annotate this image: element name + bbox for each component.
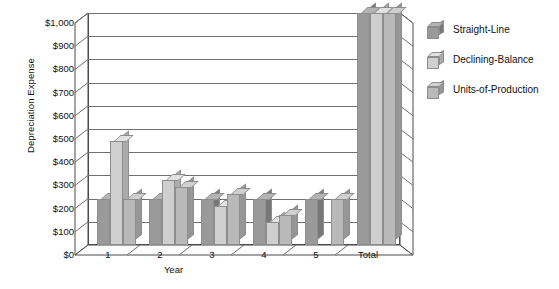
y-axis-tick-label: $1,000: [45, 18, 74, 28]
bar-face: [227, 194, 240, 245]
y-axis-tick-label: $200: [53, 204, 74, 214]
bar: [331, 199, 344, 245]
y-axis-tick-label: $300: [53, 180, 74, 190]
bar-face: [162, 180, 175, 245]
plot-area: [88, 13, 400, 245]
legend-swatch: [427, 52, 444, 69]
y-axis-tick-label: $100: [53, 227, 74, 237]
bar: [266, 222, 279, 245]
bar-face: [279, 215, 292, 245]
bar-face: [331, 199, 344, 245]
y-axis-tick-label: $700: [53, 88, 74, 98]
legend: Straight-LineDeclining-BalanceUnits-of-P…: [427, 20, 559, 110]
legend-item[interactable]: Straight-Line: [427, 20, 559, 50]
y-axis-tick-labels: $0$100$200$300$400$500$600$700$800$900$1…: [22, 0, 74, 289]
bar-group: [201, 13, 240, 245]
legend-label: Straight-Line: [453, 24, 510, 35]
bar-group: [357, 13, 396, 245]
bar: [279, 215, 292, 245]
y-axis-tick-label: $800: [53, 64, 74, 74]
y-axis-tick-label: $900: [53, 41, 74, 51]
bar-face: [357, 13, 370, 245]
bar-face: [201, 199, 214, 245]
bar-face: [266, 222, 279, 245]
x-axis-tick-label: Total: [342, 249, 394, 260]
x-axis-tick-label: 2: [134, 249, 186, 260]
x-axis-title-text: Year: [164, 264, 183, 275]
bar: [214, 206, 227, 245]
y-axis-tick-label: $500: [53, 134, 74, 144]
bar: [162, 180, 175, 245]
bar: [305, 199, 318, 245]
legend-label: Units-of-Production: [453, 84, 539, 95]
legend-swatch: [427, 22, 444, 39]
bar: [253, 199, 266, 245]
x-axis-tick-label: 4: [238, 249, 290, 260]
x-axis-tick-label: 3: [186, 249, 238, 260]
x-axis-tick-label: 1: [82, 249, 134, 260]
bar: [201, 199, 214, 245]
y-axis-tick-label: $400: [53, 157, 74, 167]
bar-face: [97, 199, 110, 245]
legend-swatch-face: [427, 57, 439, 69]
bar: [110, 141, 123, 245]
bar-face: [149, 199, 162, 245]
legend-item[interactable]: Declining-Balance: [427, 50, 559, 80]
bar-group: [149, 13, 188, 245]
bar-face: [305, 199, 318, 245]
y-axis-tick-label: $600: [53, 111, 74, 121]
bar: [227, 194, 240, 245]
legend-item[interactable]: Units-of-Production: [427, 80, 559, 110]
x-axis-tick-label: 5: [290, 249, 342, 260]
bar: [149, 199, 162, 245]
bar-group: [253, 13, 292, 245]
bar-face: [175, 187, 188, 245]
bar-face: [383, 13, 396, 245]
legend-swatch-face: [427, 27, 439, 39]
bar-face: [123, 199, 136, 245]
bar: [383, 13, 396, 245]
bar: [123, 199, 136, 245]
bar: [97, 199, 110, 245]
bar: [175, 187, 188, 245]
x-axis-tick-labels: 12345Total: [0, 249, 559, 263]
legend-label: Declining-Balance: [453, 54, 534, 65]
depreciation-expense-chart: Depreciation Expense $0$100$200$300$400$…: [0, 0, 559, 289]
bar-face: [253, 199, 266, 245]
bar-side: [395, 3, 402, 240]
bar-series-container: [88, 13, 400, 245]
bar-group: [97, 13, 136, 245]
bar: [357, 13, 370, 245]
bar-face: [110, 141, 123, 245]
bar-face: [370, 13, 383, 245]
legend-swatch: [427, 82, 444, 99]
bar: [370, 13, 383, 245]
x-axis-title: Year: [0, 264, 559, 275]
bar-group: [305, 13, 344, 245]
legend-swatch-face: [427, 87, 439, 99]
bar-face: [214, 206, 227, 245]
